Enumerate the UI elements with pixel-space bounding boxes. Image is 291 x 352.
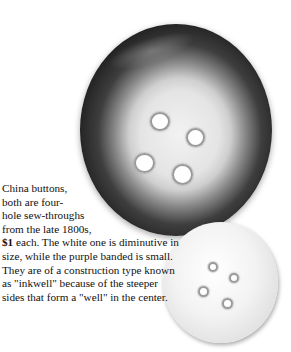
button-hole — [134, 153, 155, 173]
caption-body: each. The white one is diminutive in siz… — [2, 236, 179, 302]
button-hole — [229, 273, 239, 283]
caption-line: both are four- — [2, 196, 182, 210]
button-hole — [150, 112, 170, 131]
caption-text: China buttons, both are four- hole sew-t… — [2, 182, 182, 304]
button-hole — [222, 298, 233, 309]
caption-line: hole sew-throughs — [2, 209, 182, 223]
button-hole — [198, 286, 209, 297]
button-hole — [186, 128, 205, 147]
price: $1 — [2, 236, 13, 248]
caption-line: China buttons, — [2, 182, 182, 196]
button-hole — [208, 262, 218, 272]
button-sheen — [104, 25, 198, 78]
caption-line: from the late 1800s, — [2, 223, 182, 237]
